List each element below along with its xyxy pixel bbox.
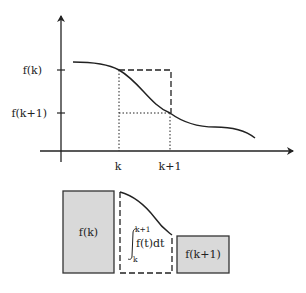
function-curve (73, 62, 255, 138)
lower-comparison: f(k) k+1 f(t)dt k f(k+1) (63, 191, 229, 273)
box-fk-label: f(k) (79, 226, 98, 239)
upper-graph: f(k) f(k+1) k k+1 (11, 16, 293, 173)
x-label-k1: k+1 (159, 160, 182, 173)
diagram-canvas: f(k) f(k+1) k k+1 f(k) k+1 f(t)dt k f(k+… (0, 0, 306, 293)
box-fk1-label: f(k+1) (185, 248, 221, 261)
integral-expression: f(t)dt (136, 237, 165, 250)
y-label-fk1: f(k+1) (11, 107, 47, 120)
x-label-k: k (115, 160, 122, 173)
integral-upper-bound: k+1 (135, 225, 151, 234)
y-label-fk: f(k) (23, 64, 42, 77)
dashed-rectangle (119, 70, 171, 113)
integral-lower-bound: k (133, 255, 138, 264)
